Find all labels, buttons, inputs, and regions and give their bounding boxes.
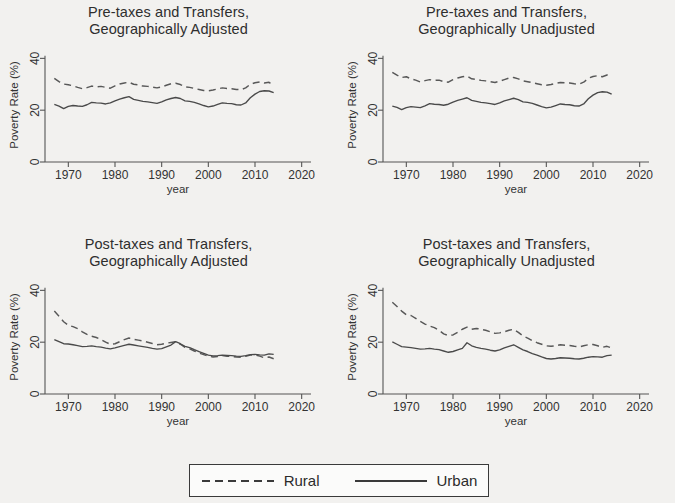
legend-entry-rural: Rural — [201, 472, 320, 489]
svg-text:1970: 1970 — [393, 400, 420, 414]
svg-text:20: 20 — [366, 103, 380, 117]
svg-text:Poverty Rate (%): Poverty Rate (%) — [8, 293, 20, 381]
svg-text:2020: 2020 — [288, 168, 315, 182]
plot-area: 02040197019801990200020102020yearPoverty… — [338, 0, 675, 222]
svg-text:20: 20 — [28, 335, 42, 349]
svg-text:2020: 2020 — [288, 400, 315, 414]
svg-text:2020: 2020 — [626, 400, 653, 414]
panel-post-taxes-unadjusted: Post-taxes and Transfers, Geographically… — [338, 232, 675, 454]
svg-text:40: 40 — [28, 51, 42, 65]
plot-area: 02040197019801990200020102020yearPoverty… — [0, 0, 337, 222]
svg-text:40: 40 — [366, 51, 380, 65]
svg-text:20: 20 — [366, 335, 380, 349]
panel-post-taxes-adjusted: Post-taxes and Transfers, Geographically… — [0, 232, 337, 454]
svg-text:1970: 1970 — [55, 168, 82, 182]
svg-text:year: year — [505, 183, 528, 195]
panel-pre-taxes-unadjusted: Pre-taxes and Transfers, Geographically … — [338, 0, 675, 222]
svg-text:1970: 1970 — [55, 400, 82, 414]
svg-text:40: 40 — [366, 283, 380, 297]
svg-text:0: 0 — [366, 158, 380, 165]
legend-label-urban: Urban — [437, 472, 478, 489]
legend-label-rural: Rural — [284, 472, 320, 489]
svg-text:1990: 1990 — [486, 168, 513, 182]
svg-text:2010: 2010 — [580, 400, 607, 414]
panel-pre-taxes-adjusted: Pre-taxes and Transfers, Geographically … — [0, 0, 337, 222]
svg-text:year: year — [167, 183, 190, 195]
legend: Rural Urban — [189, 464, 489, 497]
svg-text:0: 0 — [28, 390, 42, 397]
svg-text:1980: 1980 — [102, 400, 129, 414]
plot-area: 02040197019801990200020102020yearPoverty… — [338, 232, 675, 454]
svg-text:0: 0 — [366, 390, 380, 397]
svg-text:1990: 1990 — [148, 400, 175, 414]
poverty-rate-figure: Pre-taxes and Transfers, Geographically … — [0, 0, 675, 503]
svg-text:2010: 2010 — [580, 168, 607, 182]
svg-text:1980: 1980 — [440, 168, 467, 182]
svg-text:0: 0 — [28, 158, 42, 165]
svg-text:2010: 2010 — [242, 168, 269, 182]
svg-text:1970: 1970 — [393, 168, 420, 182]
svg-text:Poverty Rate (%): Poverty Rate (%) — [346, 61, 358, 149]
svg-text:2010: 2010 — [242, 400, 269, 414]
svg-text:1980: 1980 — [440, 400, 467, 414]
plot-area: 02040197019801990200020102020yearPoverty… — [0, 232, 337, 454]
urban-solid-swatch — [354, 475, 428, 487]
svg-text:year: year — [505, 415, 528, 427]
svg-text:2000: 2000 — [533, 168, 560, 182]
svg-text:2000: 2000 — [533, 400, 560, 414]
svg-text:Poverty Rate (%): Poverty Rate (%) — [346, 293, 358, 381]
legend-entry-urban: Urban — [354, 472, 478, 489]
svg-text:2000: 2000 — [195, 400, 222, 414]
svg-text:2020: 2020 — [626, 168, 653, 182]
rural-dashed-swatch — [201, 475, 275, 487]
svg-text:Poverty Rate (%): Poverty Rate (%) — [8, 61, 20, 149]
svg-text:2000: 2000 — [195, 168, 222, 182]
svg-text:1990: 1990 — [148, 168, 175, 182]
svg-text:1980: 1980 — [102, 168, 129, 182]
svg-text:20: 20 — [28, 103, 42, 117]
svg-text:1990: 1990 — [486, 400, 513, 414]
svg-text:year: year — [167, 415, 190, 427]
svg-text:40: 40 — [28, 283, 42, 297]
